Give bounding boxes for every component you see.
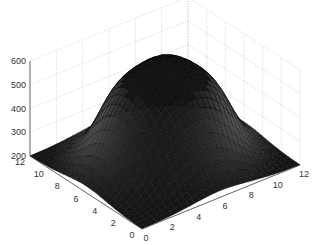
grid-line bbox=[188, 0, 300, 70]
x-tick-label: 8 bbox=[249, 190, 254, 200]
z-tick-label: 300 bbox=[11, 127, 26, 137]
y-tick-label: 6 bbox=[73, 194, 78, 204]
x-tick-label: 10 bbox=[273, 180, 283, 190]
x-tick-label: 0 bbox=[143, 233, 148, 243]
y-tick-label: 10 bbox=[34, 169, 44, 179]
grid-line bbox=[30, 0, 188, 61]
y-tick-label: 8 bbox=[55, 181, 60, 191]
y-tick-label: 2 bbox=[111, 218, 116, 228]
y-tick-label: 4 bbox=[92, 206, 97, 216]
x-tick-label: 12 bbox=[299, 169, 309, 179]
x-tick-label: 2 bbox=[170, 222, 175, 232]
y-tick-label: 12 bbox=[15, 157, 25, 167]
y-tick-label: 0 bbox=[129, 230, 134, 240]
x-tick-label: 6 bbox=[222, 201, 227, 211]
surface-plot: 200300400500600024681012024681012 bbox=[0, 0, 318, 245]
z-tick-label: 400 bbox=[11, 104, 26, 114]
z-tick-label: 500 bbox=[11, 80, 26, 90]
surface-mesh bbox=[30, 55, 300, 229]
z-tick-label: 600 bbox=[11, 56, 26, 66]
x-tick-label: 4 bbox=[196, 212, 201, 222]
